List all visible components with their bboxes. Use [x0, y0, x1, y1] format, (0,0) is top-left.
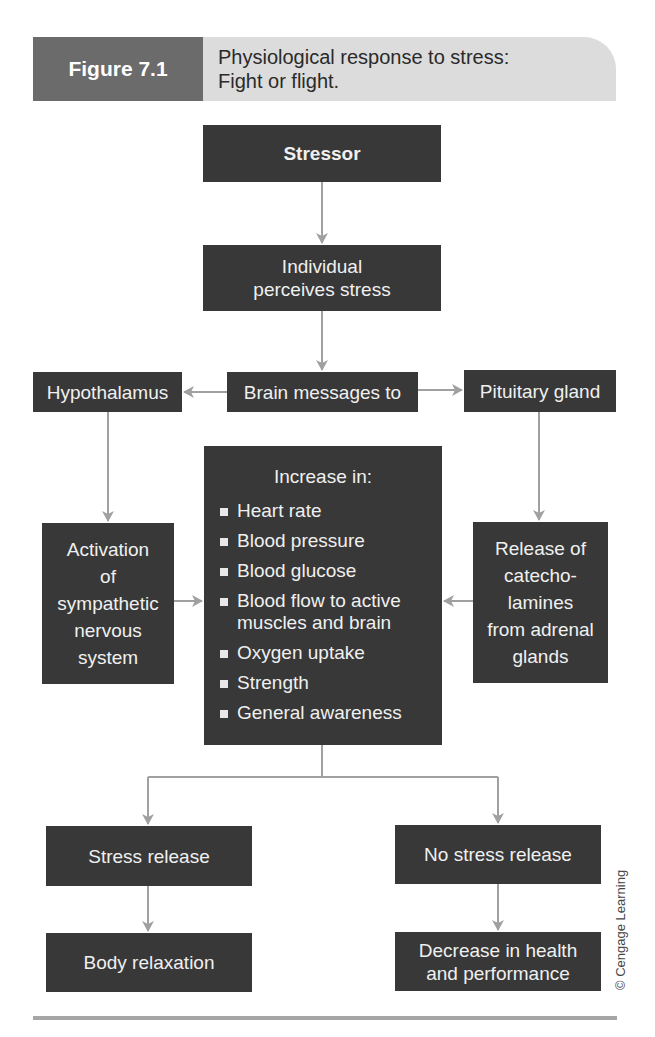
node-release-line-1: Release of: [495, 535, 586, 562]
node-sympathetic-activation: Activation of sympathetic nervous system: [42, 523, 174, 684]
node-body-relaxation-label: Body relaxation: [84, 951, 215, 974]
node-hypothalamus-label: Hypothalamus: [47, 381, 168, 404]
increase-item: Strength: [204, 672, 442, 694]
node-stress-release-label: Stress release: [88, 845, 209, 868]
node-release-line-5: glands: [513, 643, 569, 670]
node-activation-line-3: sympathetic: [57, 590, 158, 617]
node-stress-release: Stress release: [46, 826, 252, 886]
node-hypothalamus: Hypothalamus: [33, 372, 182, 412]
increase-title: Increase in:: [204, 466, 442, 488]
increase-item: Oxygen uptake: [204, 642, 442, 664]
node-release-line-4: from adrenal: [487, 616, 594, 643]
node-brain-messages: Brain messages to: [227, 372, 418, 412]
increase-item: Blood glucose: [204, 560, 442, 582]
node-release-line-3: lamines: [508, 589, 573, 616]
copyright-credit: © Cengage Learning: [613, 870, 628, 990]
increase-item: Blood pressure: [204, 530, 442, 552]
node-decrease-line-1: Decrease in health: [419, 939, 577, 962]
node-catecholamine-release: Release of catecho- lamines from adrenal…: [473, 522, 608, 683]
node-activation-line-1: Activation: [67, 536, 149, 563]
node-brain-messages-label: Brain messages to: [244, 381, 401, 404]
node-perceives-line-1: Individual: [282, 255, 362, 278]
increase-item: Heart rate: [204, 500, 442, 522]
node-pituitary-label: Pituitary gland: [480, 380, 600, 403]
node-stressor: Stressor: [203, 125, 441, 182]
node-perceives-line-2: perceives stress: [253, 278, 390, 301]
node-perceives-stress: Individual perceives stress: [203, 245, 441, 311]
node-release-line-2: catecho-: [504, 562, 577, 589]
node-decrease-line-2: and performance: [426, 962, 570, 985]
increase-item: General awareness: [204, 702, 442, 724]
node-no-stress-release: No stress release: [395, 825, 601, 884]
increase-item: Blood flow to active muscles and brain: [204, 590, 442, 634]
node-activation-line-4: nervous: [74, 617, 142, 644]
node-decrease-health: Decrease in health and performance: [395, 932, 601, 991]
bottom-rule: [33, 1016, 617, 1020]
node-stressor-label: Stressor: [283, 142, 360, 165]
node-pituitary-gland: Pituitary gland: [464, 370, 616, 412]
node-activation-line-5: system: [78, 644, 138, 671]
node-no-stress-release-label: No stress release: [424, 843, 572, 866]
node-activation-line-2: of: [100, 563, 116, 590]
node-increase-in: Increase in: Heart rate Blood pressure B…: [204, 446, 442, 745]
node-body-relaxation: Body relaxation: [46, 933, 252, 992]
